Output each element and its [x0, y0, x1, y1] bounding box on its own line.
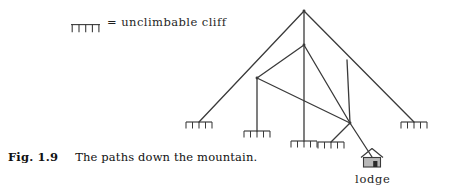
- cliff-mark-left: [244, 131, 270, 138]
- path-lower-junction-to-right-center-cliff: [331, 123, 350, 142]
- cliff-mark-far-right: [401, 122, 427, 129]
- caption-text: The paths down the mountain.: [75, 150, 257, 164]
- mountain-summit-dot: [303, 10, 306, 13]
- path-mid-to-left-junction: [257, 45, 304, 78]
- trail-edges: [199, 11, 414, 157]
- legend: = unclimbable cliff: [71, 12, 226, 32]
- lower-junction-dot: [349, 122, 352, 125]
- lodge-wall: [364, 158, 381, 168]
- cliff-mark-right-center: [318, 142, 344, 149]
- cliff-mark-center: [291, 141, 317, 148]
- cliff-marks: [186, 122, 427, 149]
- lodge-label: lodge: [355, 172, 391, 186]
- figure-caption: Fig. 1.9The paths down the mountain.: [8, 150, 257, 164]
- left-junction-dot: [256, 77, 259, 80]
- figure-number: Fig. 1.9: [8, 150, 58, 164]
- path-right-spur-to-lower-junction: [347, 60, 350, 123]
- lodge-icon: [361, 149, 383, 168]
- mid-junction-dot: [303, 44, 306, 47]
- legend-text: = unclimbable cliff: [107, 15, 226, 29]
- path-summit-to-far-right-cliff: [304, 11, 414, 122]
- figure-1-9: = unclimbable cliff Fig. 1.9The paths do…: [0, 0, 449, 191]
- cliff-mark-far-left: [186, 122, 212, 129]
- lodge-door: [373, 161, 377, 167]
- unclimbable-cliff-symbol-icon: [71, 18, 100, 28]
